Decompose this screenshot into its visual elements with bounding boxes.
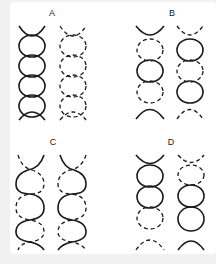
panel-b-left-strand [136, 26, 164, 119]
panel-b-right-strand [177, 26, 203, 119]
panel-d [136, 155, 204, 250]
panel-b [136, 26, 203, 119]
panel-d-left-strand [136, 155, 164, 250]
panel-a-right-strand [60, 26, 86, 120]
panel-c-right-strand [58, 155, 86, 250]
panel-a [19, 26, 86, 120]
panel-d-right-strand [178, 155, 204, 250]
chain-diagram [0, 0, 216, 264]
panel-c-left-strand [16, 155, 44, 250]
panel-c [16, 155, 86, 250]
panel-a-left-strand [19, 26, 45, 120]
